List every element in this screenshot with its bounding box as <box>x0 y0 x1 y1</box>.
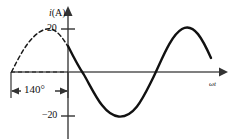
y-tick-label-positive: 20 <box>47 23 57 33</box>
x-axis-label: ωt <box>209 81 216 88</box>
waveform-figure: i(A) 20 −20 140° ωt <box>0 0 235 139</box>
y-tick-label-negative: −20 <box>42 110 57 120</box>
y-axis-label: i(A) <box>49 8 66 18</box>
x-axis <box>11 68 228 77</box>
waveform-plot <box>0 0 235 139</box>
dimension-arrow-left <box>11 88 19 95</box>
x-axis-arrowhead <box>219 68 228 77</box>
dimension-arrow-right <box>60 88 68 95</box>
phase-shift-label: 140° <box>24 84 45 95</box>
y-axis-unit: (A) <box>52 7 66 18</box>
dashed-reference-waveform <box>12 29 68 72</box>
